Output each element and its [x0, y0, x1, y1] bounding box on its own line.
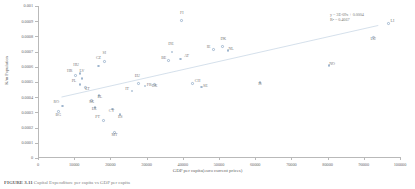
data-point-label: MT — [111, 133, 117, 137]
data-point[interactable] — [137, 82, 140, 85]
data-point-label: ES — [118, 115, 123, 119]
data-point-label: NO — [329, 62, 335, 66]
data-point[interactable] — [212, 48, 215, 51]
data-point-label: EU — [135, 74, 140, 78]
data-point[interactable] — [180, 19, 183, 22]
x-tick-label: 40000 — [178, 162, 189, 167]
y-tick-label: 0.0006 — [21, 64, 33, 69]
data-point-label: LT — [85, 87, 89, 91]
figure-caption-text: Capital Expenditure per capita vs GDP pe… — [34, 180, 130, 185]
data-point-label: UK — [152, 84, 158, 88]
data-point-label: LU — [371, 37, 376, 41]
data-point-label: BG — [56, 113, 61, 117]
data-point-label: BE — [161, 56, 166, 60]
x-tick-label: 70000 — [286, 162, 297, 167]
x-tick-label: 100000 — [394, 162, 407, 167]
data-point-label: SK — [89, 100, 94, 104]
x-axis-title: GDP per capita(euro current prices) — [0, 168, 415, 173]
data-point[interactable] — [387, 22, 390, 25]
data-point-label: HR — [67, 69, 72, 73]
y-tick-label: 0.0009 — [21, 19, 33, 24]
figure-caption-prefix: FIGURE 3.11 — [4, 180, 33, 185]
data-point-label: AT — [184, 54, 189, 58]
y-tick-label: 0.001 — [24, 3, 33, 8]
y-tick-label: 0.0008 — [21, 34, 33, 39]
data-point-label: PT — [95, 115, 100, 119]
data-point-label: FI — [180, 11, 183, 15]
x-tick-label: 50000 — [214, 162, 225, 167]
data-point-label: EL — [97, 95, 102, 99]
y-tick-label: 0.0005 — [21, 79, 33, 84]
y-tick-label: 0.0002 — [21, 125, 33, 130]
x-tick-mark — [400, 157, 401, 160]
data-point[interactable] — [81, 77, 84, 80]
x-tick-label: 90000 — [359, 162, 370, 167]
trendline — [38, 6, 400, 158]
data-point-label: DK — [220, 37, 226, 41]
data-point-label: EE — [92, 107, 97, 111]
y-tick-label: 0.0007 — [21, 49, 33, 54]
x-tick-label: 60000 — [250, 162, 261, 167]
figure-caption: FIGURE 3.11 Capital Expenditure per capi… — [4, 180, 412, 186]
data-point-label: LV — [79, 69, 84, 73]
y-tick-label: 0.0004 — [21, 95, 33, 100]
data-point-label: HU — [73, 63, 79, 67]
data-point[interactable] — [102, 119, 105, 122]
data-point[interactable] — [221, 45, 224, 48]
data-point-label: CY — [109, 109, 114, 113]
data-point-label: IE — [207, 45, 211, 49]
regression-r-squared: R² = 0.4667 — [330, 17, 364, 22]
y-tick-label: 0.0001 — [21, 140, 33, 145]
x-tick-label: 10000 — [69, 162, 80, 167]
data-point-label: RO — [54, 100, 59, 104]
y-tick-label: 0.0003 — [21, 110, 33, 115]
plot-area: ROBGHRHULVPLLTSKEECZSIELCYPTESMTITEUFRUK… — [38, 6, 400, 158]
x-tick-label: 20000 — [105, 162, 116, 167]
data-point-label: LI — [391, 19, 395, 23]
x-tick-label: 0 — [37, 162, 39, 167]
data-point-label: IS — [258, 82, 261, 86]
x-tick-label: 30000 — [141, 162, 152, 167]
data-point-label: SE — [203, 84, 208, 88]
data-point-label: CH — [195, 79, 200, 83]
regression-annotation: y = 3E-09x + 0.0004 R² = 0.4667 — [330, 12, 364, 22]
chart-figure: 00.00010.00020.00030.00040.00050.00060.0… — [0, 0, 415, 189]
x-tick-label: 80000 — [322, 162, 333, 167]
data-point[interactable] — [61, 105, 64, 108]
data-point-label: DE — [168, 42, 173, 46]
data-point[interactable] — [179, 58, 182, 61]
data-point-label: IT — [125, 87, 129, 91]
data-point[interactable] — [167, 59, 170, 62]
data-point-label: SI — [103, 51, 106, 55]
data-point-label: CZ — [96, 56, 101, 60]
data-point-label: PL — [72, 79, 77, 83]
data-point[interactable] — [191, 82, 194, 85]
data-point[interactable] — [103, 60, 106, 63]
data-point[interactable] — [74, 74, 77, 77]
y-axis-title: K/m Population — [4, 39, 9, 103]
data-point-label: NL — [228, 47, 233, 51]
y-tick-label: 0 — [31, 155, 33, 160]
